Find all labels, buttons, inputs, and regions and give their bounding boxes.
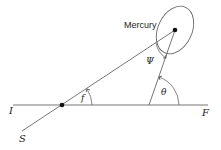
mercury-label: Mercury xyxy=(124,20,157,30)
label-theta: θ xyxy=(161,87,167,97)
mercury-geometry-diagram: Mercury I F S f Ψ θ xyxy=(0,0,221,150)
mercury-dot xyxy=(173,28,178,33)
line-s-to-mercury xyxy=(22,30,175,131)
f-angle-arc xyxy=(87,89,92,105)
label-i: I xyxy=(8,105,14,116)
label-f-angle: f xyxy=(80,93,86,103)
label-f-endpoint: F xyxy=(201,107,210,118)
label-psi: Ψ xyxy=(146,56,155,66)
earth-dot xyxy=(60,103,65,108)
label-s: S xyxy=(19,133,26,144)
